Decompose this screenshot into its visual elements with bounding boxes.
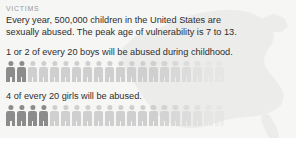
- person-icon: [127, 105, 136, 126]
- person-icon-highlighted: [6, 105, 15, 126]
- lede-text: Every year, 500,000 children in the Unit…: [6, 15, 290, 38]
- person-icon: [61, 61, 70, 82]
- person-icon: [204, 61, 213, 82]
- person-icon: [160, 61, 169, 82]
- person-icon: [105, 61, 114, 82]
- pictogram-row-girls: [6, 104, 296, 126]
- person-icon: [94, 61, 103, 82]
- person-icon: [28, 61, 37, 82]
- person-icon: [160, 105, 169, 126]
- person-icon: [215, 61, 224, 82]
- person-icon: [50, 105, 59, 126]
- person-icon: [215, 105, 224, 126]
- stat-caption-girls: 4 of every 20 girls will be abused.: [6, 91, 296, 102]
- person-icon: [94, 105, 103, 126]
- person-icon: [50, 61, 59, 82]
- victims-infographic: VICTIMS Every year, 500,000 children in …: [0, 0, 296, 152]
- person-icon-highlighted: [39, 105, 48, 126]
- person-icon: [116, 105, 125, 126]
- person-icon: [193, 61, 202, 82]
- person-icon: [83, 105, 92, 126]
- person-icon: [193, 105, 202, 126]
- person-icon: [149, 61, 158, 82]
- person-icon: [127, 61, 136, 82]
- person-icon: [83, 61, 92, 82]
- person-icon: [171, 105, 180, 126]
- person-icon: [204, 105, 213, 126]
- section-title: VICTIMS: [6, 4, 290, 13]
- person-icon: [182, 105, 191, 126]
- person-icon: [182, 61, 191, 82]
- person-icon: [61, 105, 70, 126]
- person-icon-highlighted: [28, 105, 37, 126]
- person-icon: [138, 61, 147, 82]
- person-icon: [105, 105, 114, 126]
- person-icon: [39, 61, 48, 82]
- pictogram-row-boys: [6, 60, 296, 82]
- stat-caption-boys: 1 or 2 of every 20 boys will be abused d…: [6, 47, 296, 58]
- stat-row-boys: 1 or 2 of every 20 boys will be abused d…: [0, 47, 296, 82]
- stat-row-girls: 4 of every 20 girls will be abused.: [0, 91, 296, 126]
- person-icon: [171, 61, 180, 82]
- person-icon-highlighted: [17, 61, 26, 82]
- footer-band: [0, 138, 296, 152]
- person-icon-highlighted: [6, 61, 15, 82]
- person-icon: [72, 105, 81, 126]
- person-icon-highlighted: [17, 105, 26, 126]
- person-icon: [72, 61, 81, 82]
- header-block: VICTIMS Every year, 500,000 children in …: [0, 0, 296, 38]
- person-icon: [149, 105, 158, 126]
- person-icon: [116, 61, 125, 82]
- person-icon: [138, 105, 147, 126]
